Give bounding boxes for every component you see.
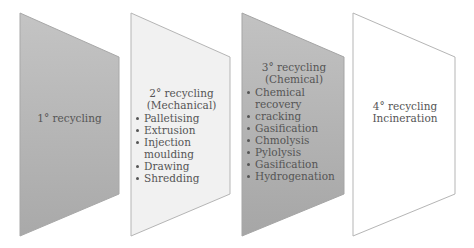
panel-secondary: 2° recycling (Mechanical) Palletising Ex… [134, 87, 229, 184]
list-item: Chemical recovery [245, 86, 317, 110]
panel-tertiary-subtitle: (Chemical) [245, 73, 343, 85]
list-item: Shredding [134, 172, 229, 184]
list-item: Drawing [134, 160, 229, 172]
list-item: Palletising [134, 112, 229, 124]
list-item: Hydrogenation [245, 170, 343, 182]
list-item: Injection moulding [134, 136, 214, 160]
list-item: Pylolysis [245, 146, 343, 158]
panel-primary-shape [20, 13, 119, 236]
panel-tertiary-title: 3° recycling [245, 61, 343, 73]
list-item: Gasification [245, 122, 343, 134]
panel-primary-title: 1° recycling [20, 112, 119, 124]
list-item: cracking [245, 110, 343, 122]
list-item: Chmolysis [245, 134, 343, 146]
panel-tertiary: 3° recycling (Chemical) Chemical recover… [245, 61, 343, 182]
panel-quaternary-title: 4° recycling [356, 100, 454, 112]
panel-quaternary-subtitle: Incineration [356, 112, 454, 124]
list-item: Extrusion [134, 124, 229, 136]
panel-quaternary-shape [353, 13, 455, 236]
panel-secondary-title: 2° recycling [134, 87, 229, 99]
panel-tertiary-list: Chemical recovery cracking Gasification … [245, 86, 343, 182]
panel-primary: 1° recycling [20, 112, 119, 124]
list-item: Gasification [245, 158, 343, 170]
recycling-hierarchy-diagram: 1° recycling 2° recycling (Mechanical) P… [0, 0, 474, 248]
panel-shapes [0, 0, 474, 248]
panel-secondary-list: Palletising Extrusion Injection moulding… [134, 112, 229, 184]
panel-secondary-subtitle: (Mechanical) [134, 99, 229, 111]
panel-quaternary: 4° recycling Incineration [356, 100, 454, 124]
